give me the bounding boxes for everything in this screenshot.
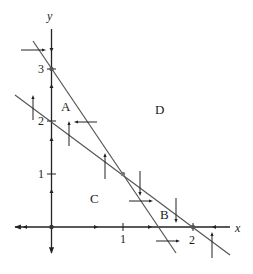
steep-nullcline-line	[33, 41, 176, 253]
region-label-c: C	[90, 191, 99, 206]
region-label-b: B	[160, 207, 169, 222]
y-axis	[50, 29, 54, 253]
x-axis-flow-left-icon	[23, 225, 27, 229]
y-axis-flow-up-icon	[50, 84, 54, 88]
region-label-a: A	[61, 99, 71, 114]
equilibrium-2-0	[191, 225, 195, 229]
y-tick-label-1: 1	[38, 167, 44, 181]
y-tick-label-3: 3	[38, 62, 44, 76]
y-axis-flow-up-icon	[50, 189, 54, 193]
x-tick-label-1: 1	[120, 232, 126, 246]
y-axis-flow-down-icon	[50, 48, 54, 52]
x-axis-flow-left-icon	[212, 225, 216, 229]
y-axis-flow-up-icon	[50, 137, 54, 141]
equilibrium-0-3	[49, 67, 53, 71]
x-axis-label: x	[234, 221, 241, 235]
x-axis-flow-right-icon	[94, 225, 98, 229]
phase-plane-figure: 3 2 1 1 2 y x A D C B	[0, 0, 253, 274]
region-label-d: D	[155, 102, 164, 117]
x-tick-label-2: 2	[189, 233, 195, 247]
x-axis-flow-right-icon	[148, 225, 152, 229]
equilibrium-1-1	[121, 172, 125, 176]
y-axis-label: y	[46, 9, 53, 23]
equilibrium-origin	[49, 225, 53, 229]
